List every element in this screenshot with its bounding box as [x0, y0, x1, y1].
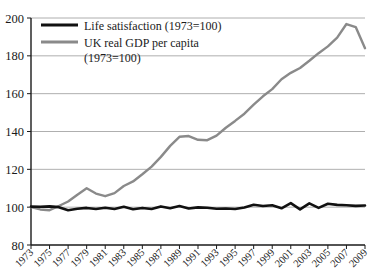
x-tick-label-1975: 1975	[31, 247, 54, 270]
x-tick-label-1995: 1995	[217, 247, 240, 270]
chart-container: 80100120140160180200 1973197519771979198…	[0, 0, 374, 280]
x-tick-label-1983: 1983	[106, 247, 129, 270]
x-tick-label-1979: 1979	[68, 247, 91, 270]
x-tick-label-1981: 1981	[87, 247, 110, 270]
x-axis-ticks: 1973197519771979198119831985198719891991…	[13, 245, 370, 269]
legend-label-2: (1973=100)	[84, 51, 141, 65]
legend-label-1: UK real GDP per capita	[84, 36, 200, 50]
x-tick-label-2003: 2003	[291, 247, 314, 270]
x-tick-label-2009: 2009	[347, 247, 370, 270]
x-tick-label-1999: 1999	[254, 247, 277, 270]
x-tick-label-2001: 2001	[273, 247, 296, 270]
x-tick-label-1993: 1993	[198, 247, 221, 270]
y-tick-label-160: 160	[5, 87, 24, 101]
legend-label-0: Life satisfaction (1973=100)	[84, 19, 221, 33]
y-axis-ticks: 80100120140160180200	[5, 12, 31, 253]
y-tick-label-100: 100	[5, 201, 24, 215]
line-chart: 80100120140160180200 1973197519771979198…	[0, 0, 374, 280]
x-tick-label-1987: 1987	[143, 247, 166, 270]
series-line-uk-gdp-per-capita	[31, 24, 365, 210]
y-tick-label-140: 140	[5, 125, 24, 139]
x-tick-label-1997: 1997	[235, 247, 258, 270]
x-tick-label-1989: 1989	[161, 247, 184, 270]
series-line-life-satisfaction	[31, 203, 365, 210]
chart-legend: Life satisfaction (1973=100)UK real GDP …	[41, 19, 221, 65]
x-tick-label-2007: 2007	[328, 247, 351, 270]
x-tick-label-1985: 1985	[124, 247, 147, 270]
x-tick-label-2005: 2005	[310, 247, 333, 270]
y-tick-label-120: 120	[5, 163, 24, 177]
x-tick-label-1991: 1991	[180, 247, 203, 270]
data-series-group	[31, 24, 365, 210]
y-tick-label-200: 200	[5, 12, 24, 26]
y-tick-label-180: 180	[5, 49, 24, 63]
x-tick-label-1977: 1977	[50, 247, 73, 270]
y-tick-label-80: 80	[12, 239, 25, 253]
